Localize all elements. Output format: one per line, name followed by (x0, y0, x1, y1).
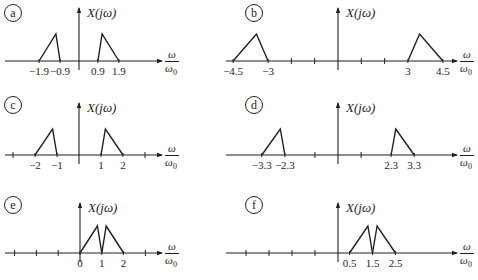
spectrum-left-triangle (39, 34, 60, 61)
x-tick-label: −0.9 (50, 65, 70, 77)
x-tick-label: −4.5 (223, 65, 243, 77)
panel-tag-label: c (10, 98, 15, 112)
spectrum-left-triangle (233, 34, 268, 61)
x-tick-label: 2 (121, 257, 127, 269)
x-tick-label: 1 (99, 257, 105, 269)
x-tick-label: 0.5 (343, 257, 357, 269)
x-axis-label-numerator: ω (168, 240, 176, 252)
x-tick-label: 4.5 (436, 65, 450, 77)
spectrum-figure: aX(jω)ωω0−1.9−0.90.91.9bX(jω)ωω0−4.5−334… (0, 0, 478, 280)
x-axis-label-denominator: ω0 (165, 156, 177, 171)
x-axis-label-numerator: ω (463, 142, 471, 154)
panel-c: cX(jω)ωω0−2−112 (5, 97, 180, 172)
panel-tag-label: e (10, 198, 15, 212)
x-axis-label-numerator: ω (168, 142, 176, 154)
panel-tag-label: b (251, 6, 257, 20)
x-axis-label-numerator: ω (168, 48, 176, 60)
panel-a: aX(jω)ωω0−1.9−0.90.91.9 (5, 5, 180, 78)
spectrum-right-triangle (391, 129, 414, 155)
spectrum-left-triangle (80, 226, 102, 253)
x-tick-label: 1 (98, 159, 104, 171)
x-tick-label: −2.3 (275, 159, 295, 171)
x-tick-label: 1.9 (112, 65, 126, 77)
panel-b: bX(jω)ωω0−4.5−334.5 (223, 5, 474, 78)
spectrum-right-triangle (102, 226, 124, 253)
panel-f: fX(jω)ωω00.51.52.5 (226, 197, 474, 270)
spectrum-left-triangle (350, 226, 373, 253)
x-axis-label-denominator: ω0 (460, 254, 472, 269)
spectrum-left-triangle (35, 129, 57, 155)
x-axis-label-numerator: ω (463, 240, 471, 252)
x-axis-label-denominator: ω0 (165, 62, 177, 77)
x-axis-label-numerator: ω (463, 48, 471, 60)
x-tick-label: 2.5 (389, 257, 403, 269)
x-axis-label-denominator: ω0 (165, 254, 177, 269)
y-axis-label: X(jω) (86, 5, 116, 20)
y-axis-label: X(jω) (345, 5, 375, 20)
spectrum-left-triangle (262, 129, 285, 155)
panel-tag-label: d (251, 98, 257, 112)
x-tick-label: 3.3 (407, 159, 421, 171)
x-tick-label: −3 (262, 65, 274, 77)
x-tick-label: 0.9 (91, 65, 105, 77)
x-tick-label: 2 (120, 159, 126, 171)
y-axis-label: X(jω) (86, 100, 116, 115)
spectrum-right-triangle (101, 129, 123, 155)
x-tick-label: −1.9 (29, 65, 49, 77)
x-tick-label: −1 (51, 159, 63, 171)
x-tick-label: 2.3 (384, 159, 398, 171)
spectrum-right-triangle (373, 226, 396, 253)
x-tick-label: 0 (77, 257, 83, 269)
x-tick-label: 1.5 (366, 257, 380, 269)
x-axis-label-denominator: ω0 (460, 62, 472, 77)
x-axis-label-denominator: ω0 (460, 156, 472, 171)
panel-d: dX(jω)ωω0−3.3−2.32.33.3 (226, 97, 474, 172)
x-tick-label: −2 (29, 159, 41, 171)
panel-e: eX(jω)ωω0012 (5, 197, 180, 270)
y-axis-label: X(jω) (345, 100, 375, 115)
x-tick-label: −3.3 (252, 159, 272, 171)
spectrum-right-triangle (98, 34, 119, 61)
y-axis-label: X(jω) (87, 200, 117, 215)
panel-tag-label: a (10, 6, 16, 20)
spectrum-right-triangle (408, 34, 443, 61)
y-axis-label: X(jω) (345, 200, 375, 215)
x-tick-label: 3 (405, 65, 411, 77)
panel-tag-label: f (252, 198, 256, 212)
